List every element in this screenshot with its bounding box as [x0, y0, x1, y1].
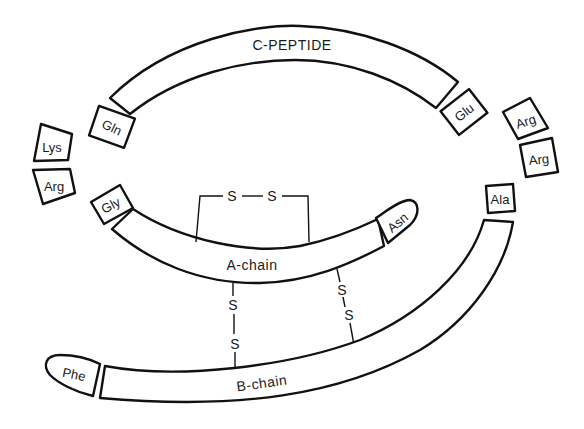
residue-arg-right-1: Arg [503, 98, 548, 139]
svg-text:S: S [227, 188, 236, 204]
svg-text:Arg: Arg [44, 179, 64, 194]
svg-text:S: S [344, 307, 353, 323]
residue-arg-left: Arg [33, 169, 75, 204]
interchain-disulfide-bridge-2: S S [337, 269, 354, 345]
svg-text:Arg: Arg [528, 151, 550, 168]
c-peptide-segment: C-PEPTIDE [110, 26, 458, 114]
a-chain-label: A-chain [227, 257, 278, 273]
intrachain-disulfide-bridge: S S [196, 188, 309, 242]
svg-text:Lys: Lys [42, 140, 62, 155]
a-chain-segment: A-chain [112, 209, 384, 283]
svg-text:S: S [267, 188, 276, 204]
residue-ala: Ala [486, 184, 515, 213]
residue-lys: Lys [34, 124, 72, 161]
c-peptide-label: C-PEPTIDE [252, 37, 331, 53]
proinsulin-diagram: C-PEPTIDE Gln Glu Lys Arg Arg Arg Ala Gl… [0, 0, 584, 429]
svg-text:S: S [230, 336, 239, 352]
residue-phe: Phe [46, 355, 100, 396]
interchain-disulfide-bridge-1: S S [228, 283, 239, 371]
residue-arg-right-2: Arg [520, 138, 558, 177]
svg-text:S: S [337, 282, 346, 298]
svg-text:S: S [228, 297, 237, 313]
svg-text:Ala: Ala [491, 192, 511, 207]
